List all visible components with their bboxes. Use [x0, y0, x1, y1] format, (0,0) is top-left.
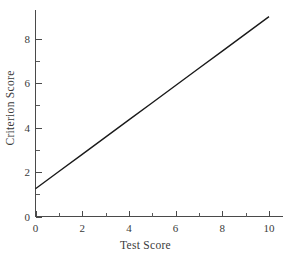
chart-figure: 0246810 02468 Test Score Criterion Score: [0, 0, 291, 259]
y-axis-title: Criterion Score: [2, 0, 18, 216]
x-tick-label: 8: [220, 223, 226, 234]
x-tick-label: 4: [126, 223, 132, 234]
x-tick-label: 0: [33, 223, 39, 234]
axes: [36, 10, 284, 217]
x-tick-label: 2: [79, 223, 85, 234]
x-axis-title: Test Score: [0, 239, 291, 251]
x-tick-label: 6: [173, 223, 179, 234]
series-line: [36, 17, 269, 189]
y-axis-title-text: Criterion Score: [4, 70, 16, 145]
plot-area: [0, 0, 291, 259]
x-axis-ticks: [37, 211, 270, 217]
x-tick-label: 10: [263, 223, 274, 234]
y-axis-ticks: [36, 40, 42, 218]
data-series: [36, 17, 269, 189]
